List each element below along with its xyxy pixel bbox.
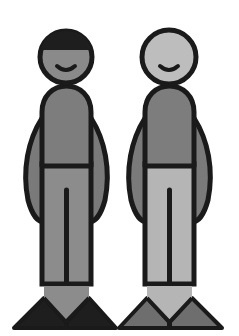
right-figure-head xyxy=(142,30,196,84)
illustration xyxy=(0,0,239,336)
left-figure-torso xyxy=(42,86,91,166)
right-figure-torso xyxy=(145,86,194,166)
